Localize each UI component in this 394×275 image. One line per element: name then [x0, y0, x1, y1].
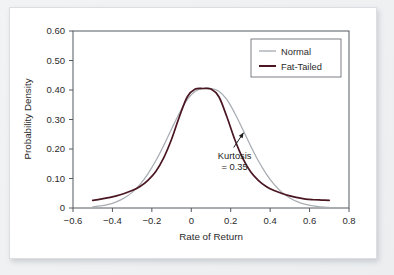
kurtosis-annotation-line2: = 0.35: [222, 162, 248, 172]
x-tick-label: 0: [189, 215, 194, 226]
legend-label-normal: Normal: [281, 47, 311, 57]
x-axis-ticks: −0.6−0.4−0.200.20.40.60.8: [64, 208, 356, 226]
y-tick-label: 0.60: [47, 25, 66, 36]
legend-label-fat-tailed: Fat-Tailed: [281, 62, 322, 72]
x-tick-label: −0.4: [103, 215, 122, 226]
kurtosis-annotation-line1: Kurtosis: [218, 151, 252, 161]
chart-legend: Normal Fat-Tailed: [251, 39, 341, 77]
x-axis-title: Rate of Return: [179, 231, 243, 242]
y-tick-label: 0: [60, 202, 65, 213]
y-tick-label: 0.20: [47, 143, 66, 154]
y-tick-label: 0.30: [47, 114, 66, 125]
y-axis-title: Probability Density: [22, 78, 33, 159]
x-tick-label: −0.6: [64, 215, 83, 226]
y-tick-label: 0.50: [47, 55, 66, 66]
distribution-chart: 00.100.200.300.400.500.60 −0.6−0.4−0.200…: [10, 8, 378, 260]
y-tick-label: 0.40: [47, 84, 66, 95]
x-tick-label: 0.8: [342, 215, 355, 226]
chart-area: 00.100.200.300.400.500.60 −0.6−0.4−0.200…: [10, 8, 378, 260]
x-tick-label: −0.2: [142, 215, 161, 226]
y-axis-ticks: 00.100.200.300.400.500.60: [47, 25, 74, 213]
x-tick-label: 0.2: [224, 215, 237, 226]
x-tick-label: 0.4: [264, 215, 277, 226]
y-tick-label: 0.10: [47, 173, 66, 184]
x-tick-label: 0.6: [303, 215, 316, 226]
figure-card: 00.100.200.300.400.500.60 −0.6−0.4−0.200…: [0, 0, 394, 275]
figure-panel: 00.100.200.300.400.500.60 −0.6−0.4−0.200…: [9, 7, 377, 259]
